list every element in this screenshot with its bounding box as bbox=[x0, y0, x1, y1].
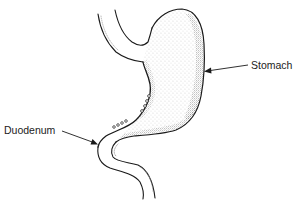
duodenum-pointer bbox=[62, 131, 98, 145]
duodenum-label: Duodenum bbox=[4, 125, 55, 136]
esophagus-right-wall bbox=[115, 10, 152, 45]
arrowhead-icon bbox=[204, 68, 212, 74]
stomach-diagram bbox=[0, 0, 297, 210]
arrowhead-icon bbox=[91, 139, 99, 145]
duodenum bbox=[98, 142, 155, 199]
stomach-label: Stomach bbox=[251, 60, 292, 71]
stomach-body bbox=[115, 9, 204, 141]
esophagus-left-wall bbox=[98, 14, 143, 62]
esophagus bbox=[98, 10, 152, 62]
stomach-pointer bbox=[204, 65, 248, 74]
duodenum-outer-wall bbox=[98, 147, 144, 199]
